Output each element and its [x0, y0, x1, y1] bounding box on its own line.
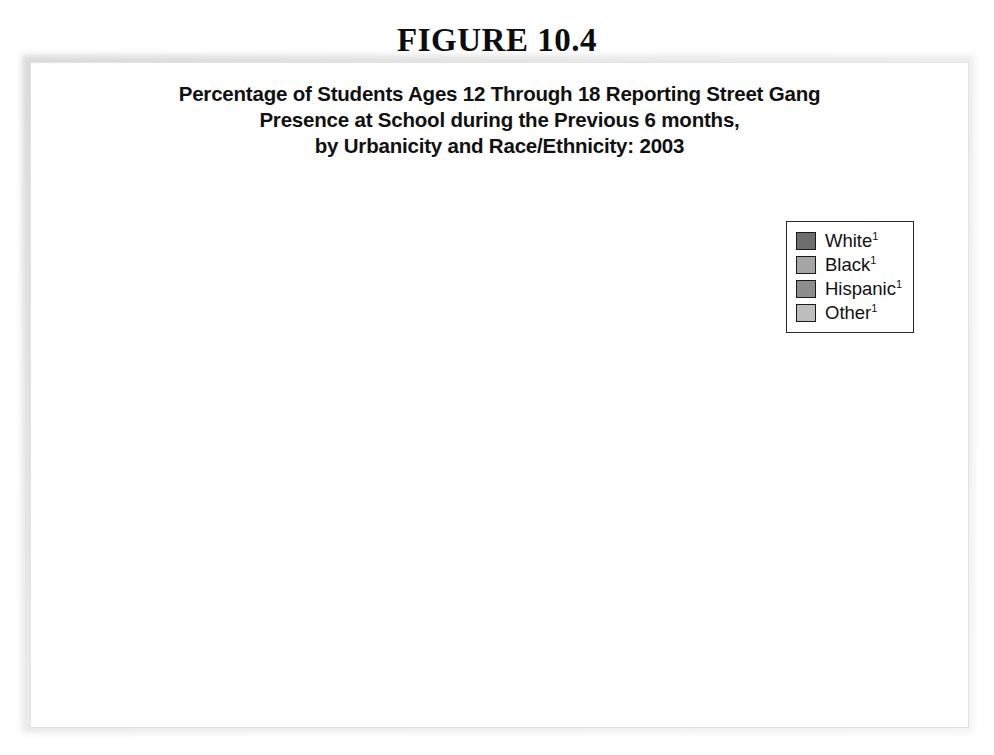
chart-title-line-3: by Urbanicity and Race/Ethnicity: 2003	[71, 133, 928, 159]
legend-label: Black1	[825, 254, 876, 276]
legend-label: Other1	[825, 302, 877, 324]
figure-page: FIGURE 10.4 Percentage of Students Ages …	[0, 0, 994, 755]
legend-label: Hispanic1	[825, 278, 902, 300]
legend-item: Black1	[796, 253, 902, 277]
chart-title-line-2: Presence at School during the Previous 6…	[71, 107, 928, 133]
y-axis-title: Percent	[0, 311, 2, 370]
figure-card: Percentage of Students Ages 12 Through 1…	[30, 62, 969, 728]
legend-item: Hispanic1	[796, 277, 902, 301]
legend-swatch	[796, 304, 816, 322]
legend-swatch	[796, 256, 816, 274]
legend-item: Other1	[796, 301, 902, 325]
figure-heading: FIGURE 10.4	[0, 22, 994, 59]
legend-swatch	[796, 280, 816, 298]
chart-title-line-1: Percentage of Students Ages 12 Through 1…	[71, 81, 928, 107]
legend-item: White1	[796, 229, 902, 253]
legend-swatch	[796, 232, 816, 250]
legend-label: White1	[825, 230, 878, 252]
chart-legend: White1Black1Hispanic1Other1	[786, 221, 914, 333]
chart-title: Percentage of Students Ages 12 Through 1…	[71, 81, 928, 159]
